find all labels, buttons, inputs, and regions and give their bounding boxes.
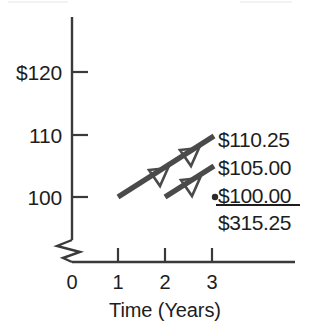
total-value-label: $315.25 — [218, 212, 291, 233]
x-axis-tick-label-0: 0 — [60, 272, 84, 292]
x-axis-tick-label-2: 2 — [153, 272, 177, 292]
x-axis-title: Time (Years) — [75, 300, 255, 320]
x-axis-tick-label-1: 1 — [106, 272, 130, 292]
y-axis-tick-label-100: 100 — [0, 187, 62, 208]
value-label-110-25: $110.25 — [218, 129, 290, 150]
x-axis-tick-label-3: 3 — [200, 272, 224, 292]
y-axis-break-zigzag — [57, 240, 80, 262]
y-axis-tick-label-120: $120 — [0, 62, 62, 83]
y-axis-tick-label-110: 110 — [0, 125, 62, 146]
compound-interest-chart: $120 110 100 0 1 2 3 Time (Years) $110.2… — [0, 0, 322, 331]
series-line-1 — [118, 136, 214, 197]
value-label-100-00: $100.00 — [218, 185, 291, 206]
value-label-105-00: $105.00 — [218, 157, 291, 178]
